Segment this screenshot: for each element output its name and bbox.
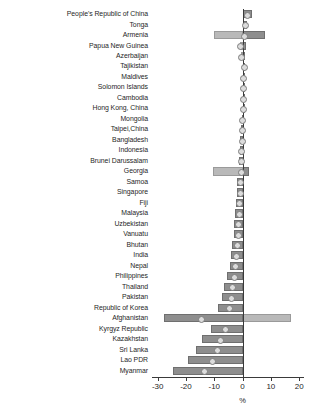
bar-row — [152, 135, 302, 146]
category-label: Brunei Darussalam — [0, 157, 148, 165]
bar-light — [214, 31, 243, 39]
value-marker — [214, 347, 221, 354]
value-marker — [240, 96, 247, 103]
bar-chart: People's Republic of ChinaTongaArmeniaPa… — [0, 0, 314, 418]
x-axis-title: % — [239, 396, 246, 405]
bar-dark — [173, 367, 243, 375]
value-marker — [241, 33, 248, 40]
bar-row — [152, 114, 302, 125]
category-label: Uzbekistan — [0, 220, 148, 228]
category-label: Bhutan — [0, 241, 148, 249]
value-marker — [241, 64, 248, 71]
bar-row — [152, 82, 302, 93]
bar-row — [152, 40, 302, 51]
bar-row — [152, 219, 302, 230]
bar-row — [152, 166, 302, 177]
category-label: Malaysia — [0, 209, 148, 217]
value-marker — [239, 127, 246, 134]
value-marker — [242, 22, 249, 29]
bar-row — [152, 61, 302, 72]
x-tick-mark — [214, 378, 215, 381]
bar-row — [152, 282, 302, 293]
value-marker — [239, 138, 246, 145]
value-marker — [238, 169, 245, 176]
bar-row — [152, 19, 302, 30]
bar-row — [152, 51, 302, 62]
category-label: Azerbaijan — [0, 52, 148, 60]
bar-row — [152, 271, 302, 282]
category-label: Georgia — [0, 167, 148, 175]
category-label: Vanuatu — [0, 230, 148, 238]
x-tick-mark — [271, 378, 272, 381]
category-label: Afghanistan — [0, 314, 148, 322]
category-label: Lao PDR — [0, 356, 148, 364]
category-label: Tajikistan — [0, 62, 148, 70]
category-label: People's Republic of China — [0, 10, 148, 18]
category-label: Samoa — [0, 178, 148, 186]
category-label: Pakistan — [0, 293, 148, 301]
category-label: Nepal — [0, 262, 148, 270]
x-tick-mark — [243, 378, 244, 381]
x-tick-label: 20 — [295, 382, 304, 391]
x-tick-mark — [186, 378, 187, 381]
category-label: Sri Lanka — [0, 346, 148, 354]
value-marker — [236, 211, 243, 218]
category-label: Republic of Korea — [0, 304, 148, 312]
x-tick-mark — [299, 378, 300, 381]
category-axis-labels: People's Republic of ChinaTongaArmeniaPa… — [0, 9, 152, 376]
value-marker — [201, 368, 208, 375]
value-marker — [239, 117, 246, 124]
x-tick-mark — [158, 378, 159, 381]
x-tick-label: 10 — [266, 382, 275, 391]
category-label: Taipei,China — [0, 125, 148, 133]
value-marker — [240, 85, 247, 92]
bar-row — [152, 240, 302, 251]
bar-row — [152, 303, 302, 314]
value-marker — [238, 54, 245, 61]
plot-area — [152, 9, 302, 376]
category-label: Kyrgyz Republic — [0, 325, 148, 333]
value-marker — [238, 158, 245, 165]
category-label: Solomon Islands — [0, 83, 148, 91]
category-label: Papua New Guinea — [0, 42, 148, 50]
value-marker — [235, 232, 242, 239]
bar-row — [152, 229, 302, 240]
bar-row — [152, 334, 302, 345]
category-label: Cambodia — [0, 94, 148, 102]
bar-row — [152, 103, 302, 114]
bar-row — [152, 30, 302, 41]
bar-row — [152, 250, 302, 261]
category-label: Singapore — [0, 188, 148, 196]
category-label: Myanmar — [0, 367, 148, 375]
bar-row — [152, 93, 302, 104]
value-marker — [217, 337, 224, 344]
bar-row — [152, 355, 302, 366]
category-label: Maldives — [0, 73, 148, 81]
x-tick-label: -20 — [180, 382, 192, 391]
category-label: Mongolia — [0, 115, 148, 123]
bar-row — [152, 72, 302, 83]
category-label: Fiji — [0, 199, 148, 207]
value-marker — [238, 148, 245, 155]
category-label: Bangladesh — [0, 136, 148, 144]
category-label: Kazakhstan — [0, 335, 148, 343]
category-label: Tonga — [0, 21, 148, 29]
bar-row — [152, 187, 302, 198]
bar-row — [152, 313, 302, 324]
bar-row — [152, 261, 302, 272]
bar-row — [152, 9, 302, 20]
category-label: Philippines — [0, 272, 148, 280]
value-marker — [240, 106, 247, 113]
bar-row — [152, 177, 302, 188]
category-label: Indonesia — [0, 146, 148, 154]
bar-row — [152, 324, 302, 335]
category-label: Armenia — [0, 31, 148, 39]
category-label: Thailand — [0, 283, 148, 291]
value-marker — [237, 190, 244, 197]
x-tick-label: -10 — [208, 382, 220, 391]
category-label: Hong Kong, China — [0, 104, 148, 112]
x-axis: -30-20-1001020 — [152, 377, 304, 378]
value-marker — [231, 274, 238, 281]
bar-row — [152, 292, 302, 303]
category-label: India — [0, 251, 148, 259]
